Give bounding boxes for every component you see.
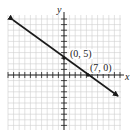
point-label-0-5: (0, 5): [70, 48, 92, 60]
y-axis-label: y: [56, 4, 62, 15]
point-label-7-0: (7, 0): [90, 62, 112, 74]
coordinate-plane: x y (0, 5) (7, 0): [0, 0, 140, 137]
x-axis-label: x: [124, 71, 130, 82]
point-0-5: [62, 56, 66, 60]
